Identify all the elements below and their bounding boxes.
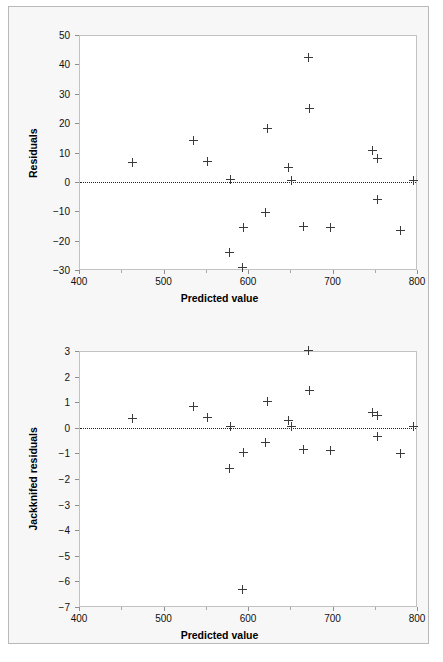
- y-axis-tick-label: −4: [37, 525, 70, 536]
- x-axis-minor-tick: [121, 270, 122, 273]
- x-axis-tick-label: 800: [409, 276, 426, 287]
- data-point-marker: [239, 223, 248, 232]
- plot-wrapper-top: Residuals −30−20−1001020304050 400500600…: [9, 11, 430, 321]
- chart-panel-residuals: Residuals −30−20−1001020304050 400500600…: [9, 11, 430, 321]
- data-point-marker: [189, 136, 198, 145]
- data-point-marker: [299, 445, 308, 454]
- y-axis-tick-label: 10: [37, 147, 70, 158]
- x-axis-minor-tick: [375, 270, 376, 273]
- y-axis-tick: [75, 479, 79, 480]
- y-axis-tick: [75, 35, 79, 36]
- data-point-marker: [287, 176, 296, 185]
- x-axis-tick-label: 600: [240, 613, 257, 624]
- data-point-marker: [261, 438, 270, 447]
- y-axis-tick: [75, 64, 79, 65]
- data-point-marker: [373, 195, 382, 204]
- x-axis-minor-tick: [206, 607, 207, 610]
- y-axis-tick-label: −7: [37, 602, 70, 613]
- data-point-marker: [304, 346, 313, 355]
- data-point-marker: [373, 411, 382, 420]
- x-axis-title-bottom: Predicted value: [9, 629, 430, 641]
- data-point-marker: [128, 414, 137, 423]
- data-point-marker: [368, 146, 377, 155]
- data-point-marker: [263, 124, 272, 133]
- x-axis-tick-label: 700: [324, 276, 341, 287]
- data-point-marker: [305, 386, 314, 395]
- x-axis-minor-tick: [206, 270, 207, 273]
- x-axis-tick-label: 600: [240, 276, 257, 287]
- data-point-marker: [226, 422, 235, 431]
- zero-reference-line-bottom: [80, 428, 416, 429]
- y-axis-tick-label: 0: [37, 176, 70, 187]
- data-point-marker: [287, 422, 296, 431]
- y-axis-tick-label: −1: [37, 448, 70, 459]
- data-point-marker: [284, 163, 293, 172]
- data-point-marker: [373, 432, 382, 441]
- x-axis-tick: [248, 607, 249, 611]
- y-axis-tick-label: −6: [37, 576, 70, 587]
- data-point-marker: [305, 104, 314, 113]
- plot-area-residuals: [79, 35, 417, 270]
- y-axis-tick-label: −3: [37, 499, 70, 510]
- plot-area-jackknifed-residuals: [79, 351, 417, 607]
- x-axis-title-top: Predicted value: [9, 292, 430, 304]
- data-point-marker: [238, 585, 247, 594]
- y-axis-tick-label: 30: [37, 88, 70, 99]
- y-axis-tick: [75, 241, 79, 242]
- x-axis-tick-label: 500: [155, 613, 172, 624]
- x-axis-tick: [333, 607, 334, 611]
- y-axis-tick-label: 50: [37, 30, 70, 41]
- data-point-marker: [189, 402, 198, 411]
- y-axis-tick-label: −5: [37, 550, 70, 561]
- data-point-marker: [203, 157, 212, 166]
- y-axis-tick: [75, 428, 79, 429]
- data-point-marker: [304, 53, 313, 62]
- x-axis-tick-label: 500: [155, 276, 172, 287]
- x-axis-minor-tick: [375, 607, 376, 610]
- data-point-marker: [368, 408, 377, 417]
- x-axis-tick: [417, 270, 418, 274]
- y-axis-tick-label: 20: [37, 118, 70, 129]
- y-axis-tick-label: −30: [37, 265, 70, 276]
- y-axis-tick: [75, 402, 79, 403]
- y-axis-tick-label: −10: [37, 206, 70, 217]
- y-axis-tick: [75, 94, 79, 95]
- data-point-marker: [238, 263, 247, 272]
- y-axis-tick-label: 2: [37, 371, 70, 382]
- y-axis-tick: [75, 505, 79, 506]
- data-point-marker: [203, 413, 212, 422]
- data-point-marker: [373, 154, 382, 163]
- data-point-marker: [326, 223, 335, 232]
- x-axis-tick: [79, 607, 80, 611]
- x-axis-tick-label: 400: [71, 276, 88, 287]
- y-axis-tick: [75, 453, 79, 454]
- chart-panel-jackknifed-residuals: Jackknifed residuals −7−6−5−4−3−2−10123 …: [9, 321, 430, 641]
- x-axis-minor-tick: [290, 607, 291, 610]
- data-point-marker: [326, 446, 335, 455]
- data-point-marker: [225, 464, 234, 473]
- x-axis-tick: [417, 607, 418, 611]
- x-axis-minor-tick: [121, 607, 122, 610]
- x-axis-tick-label: 700: [324, 613, 341, 624]
- y-axis-tick-label: −2: [37, 474, 70, 485]
- figure-frame: Residuals −30−20−1001020304050 400500600…: [8, 6, 429, 644]
- y-axis-tick-label: 40: [37, 59, 70, 70]
- x-axis-tick-label: 400: [71, 613, 88, 624]
- x-axis-minor-tick: [290, 270, 291, 273]
- plot-wrapper-bottom: Jackknifed residuals −7−6−5−4−3−2−10123 …: [9, 321, 430, 641]
- data-point-marker: [225, 248, 234, 257]
- data-point-marker: [239, 448, 248, 457]
- y-axis-tick: [75, 351, 79, 352]
- x-axis-tick: [333, 270, 334, 274]
- y-axis-tick: [75, 530, 79, 531]
- y-axis-tick-label: 1: [37, 397, 70, 408]
- data-point-marker: [128, 158, 137, 167]
- x-axis-tick: [164, 270, 165, 274]
- y-axis-tick: [75, 153, 79, 154]
- y-axis-tick: [75, 211, 79, 212]
- y-axis-tick: [75, 377, 79, 378]
- data-point-marker: [261, 208, 270, 217]
- zero-reference-line-top: [80, 182, 416, 183]
- data-point-marker: [299, 222, 308, 231]
- data-point-marker: [263, 397, 272, 406]
